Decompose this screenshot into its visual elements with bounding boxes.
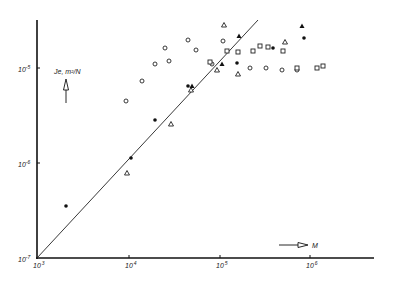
svg-text:10-6: 10-6 bbox=[18, 159, 30, 168]
x-tick-labels: 103 104 105 106 bbox=[33, 260, 318, 269]
arrow-up-icon bbox=[64, 79, 69, 103]
y-axis-label: Je, m²/N bbox=[53, 68, 81, 75]
reference-line bbox=[37, 20, 258, 258]
arrow-right-icon bbox=[279, 243, 308, 248]
series-open-triangles bbox=[125, 23, 288, 176]
series-filled-triangles bbox=[190, 24, 305, 89]
scatter-plot: 103 104 105 106 10-7 10-6 10-5 Je, m²/N … bbox=[0, 0, 395, 287]
svg-text:10-5: 10-5 bbox=[18, 64, 30, 73]
svg-text:104: 104 bbox=[125, 260, 137, 269]
x-axis-label: M bbox=[312, 242, 318, 249]
series-filled-circles bbox=[64, 36, 306, 208]
y-tick-labels: 10-7 10-6 10-5 bbox=[18, 64, 30, 263]
svg-text:103: 103 bbox=[33, 260, 45, 269]
svg-text:10-7: 10-7 bbox=[18, 254, 30, 263]
svg-text:106: 106 bbox=[306, 260, 318, 269]
svg-text:105: 105 bbox=[216, 260, 228, 269]
